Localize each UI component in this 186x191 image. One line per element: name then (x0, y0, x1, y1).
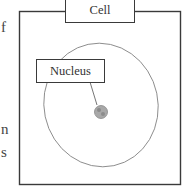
nucleus-label-box: Nucleus (36, 59, 105, 83)
nucleus-label: Nucleus (50, 64, 91, 79)
nucleolus-texture (97, 108, 101, 112)
nucleolus-texture (101, 112, 105, 116)
cell-label: Cell (90, 3, 111, 18)
nucleus-pointer-line (90, 82, 97, 105)
cell-label-box: Cell (65, 0, 135, 23)
nucleolus-dot (95, 106, 108, 119)
cell-diagram (0, 0, 186, 191)
cell-membrane (32, 33, 169, 178)
